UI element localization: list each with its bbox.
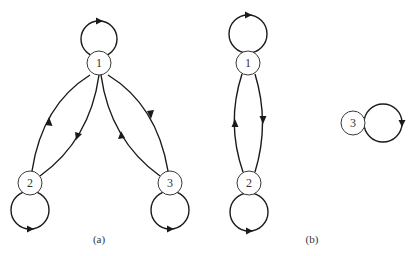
arrow-icon bbox=[399, 120, 406, 127]
self-loop-b-1 bbox=[229, 15, 267, 53]
self-loop-b-2 bbox=[230, 193, 268, 231]
node-b-3: 3 bbox=[341, 111, 365, 135]
self-loop-b-3 bbox=[364, 104, 402, 142]
arrow-icon bbox=[27, 226, 34, 233]
edge-b-1-to-2 bbox=[255, 74, 263, 172]
diagram-a: 1 2 3 (a) bbox=[11, 18, 189, 247]
node-a-1: 1 bbox=[87, 51, 111, 75]
node-a-2: 2 bbox=[18, 171, 42, 195]
svg-text:1: 1 bbox=[245, 56, 251, 70]
node-b-2: 2 bbox=[237, 171, 261, 195]
svg-text:3: 3 bbox=[167, 176, 173, 190]
node-a-3: 3 bbox=[158, 171, 182, 195]
edge-a-3-to-1 bbox=[101, 75, 160, 176]
caption-a: (a) bbox=[93, 233, 106, 246]
svg-text:3: 3 bbox=[350, 116, 356, 130]
self-loop-a-2 bbox=[11, 191, 49, 229]
node-b-1: 1 bbox=[236, 51, 260, 75]
arrow-icon bbox=[232, 119, 239, 127]
arrow-icon bbox=[118, 131, 125, 139]
arrow-icon bbox=[246, 228, 253, 235]
arrow-icon bbox=[260, 116, 267, 124]
arrow-icon bbox=[167, 226, 174, 233]
state-diagrams: 1 2 3 (a) 1 2 3 bbox=[0, 0, 415, 256]
svg-text:2: 2 bbox=[246, 176, 252, 190]
arrow-icon bbox=[96, 18, 103, 25]
edge-a-2-to-1 bbox=[32, 75, 90, 171]
arrow-icon bbox=[75, 132, 82, 140]
self-loop-a-3 bbox=[151, 191, 189, 229]
svg-text:1: 1 bbox=[96, 56, 102, 70]
caption-b: (b) bbox=[306, 233, 319, 246]
diagram-b: 1 2 3 (b) bbox=[229, 12, 406, 247]
arrow-icon bbox=[245, 12, 252, 19]
svg-text:2: 2 bbox=[27, 176, 33, 190]
